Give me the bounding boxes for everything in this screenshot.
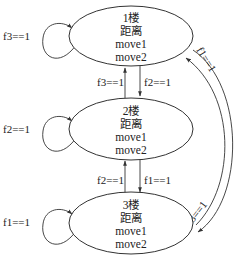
node-line: move1 [115,225,147,237]
node-line: move1 [115,38,147,50]
state-node-floor2: 2楼 距离 move1 move2 [69,98,193,160]
node-line: 距离 [120,117,142,130]
edge-label-floor3-to-floor1: f1==1 [194,45,219,74]
node-title: 3楼 [123,198,141,211]
edge-label-floor3-to-floor2: f2==1 [97,174,124,186]
edge-label-floor2-to-floor1: f3==1 [97,76,124,88]
node-title: 1楼 [123,11,141,24]
self-loop-label-floor3: f1==1 [3,216,30,228]
self-loop-label-floor2: f2==1 [3,123,30,135]
state-node-floor1: 1楼 距离 move1 move2 [69,6,193,66]
node-line: move2 [115,144,147,156]
edge-label-floor2-to-floor3: f1==1 [144,174,171,186]
node-line: 距离 [120,24,142,37]
edge-floor3-to-floor1 [186,58,225,225]
node-title: 2楼 [123,104,141,117]
node-line: 距离 [120,211,142,224]
self-loop-label-floor1: f3==1 [3,30,30,42]
edge-label-floor1-to-floor2: f2==1 [144,76,171,88]
node-line: move2 [115,51,147,63]
node-line: move1 [115,131,147,143]
node-line: move2 [115,238,147,250]
state-diagram: f3==1 f2==1 f2==1 f1==1 f1==1 f3==1 f3==… [0,0,237,271]
state-node-floor3: 3楼 距离 move1 move2 [69,192,193,254]
